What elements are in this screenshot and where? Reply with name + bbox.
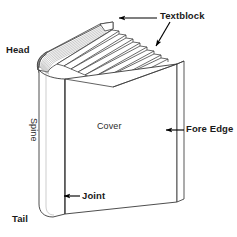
spine-panel xyxy=(39,70,65,217)
label-cover: Cover xyxy=(97,122,122,131)
label-spine: Spine xyxy=(29,118,38,142)
book-anatomy-diagram: Textblock Head Fore Edge Joint Tail Cove… xyxy=(0,0,237,237)
label-fore-edge: Fore Edge xyxy=(186,124,233,134)
label-joint: Joint xyxy=(82,191,105,201)
fore-edge-strip xyxy=(177,61,184,202)
label-textblock: Textblock xyxy=(160,11,205,21)
label-head: Head xyxy=(6,45,30,55)
book-body xyxy=(39,61,184,217)
label-tail: Tail xyxy=(12,214,28,224)
arrow-textblock-edges xyxy=(156,22,170,46)
